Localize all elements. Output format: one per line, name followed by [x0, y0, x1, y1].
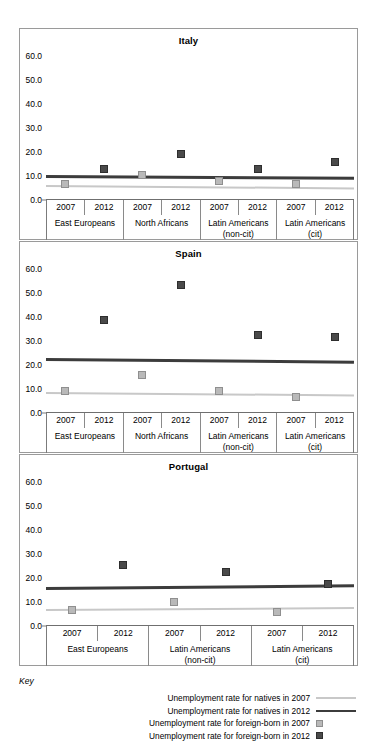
x-axis-year-row: 20072012200720122007201220072012	[47, 200, 353, 215]
legend-item-label: Unemployment rate for natives in 2007	[167, 693, 310, 703]
natives-2012-line	[46, 584, 354, 589]
legend-item-label: Unemployment rate for foreign-born in 20…	[149, 731, 310, 741]
natives-2012-line	[46, 175, 354, 179]
x-axis-group-cell: Latin Americans(cit)	[276, 428, 353, 453]
group-label-line1: North Africans	[124, 218, 200, 229]
foreign-born-2012-marker	[177, 150, 185, 158]
x-axis-group-cell: North Africans	[123, 428, 200, 453]
plot-area-portugal: 0.010.020.030.040.050.060.0	[46, 482, 354, 626]
x-axis-group-row: East EuropeansNorth AfricansLatin Americ…	[47, 215, 353, 240]
y-axis-tick-label: 60.0	[12, 264, 42, 274]
group-label-line1: East Europeans	[47, 644, 148, 655]
y-axis-tick-label: 60.0	[12, 51, 42, 61]
x-axis-portugal: 200720122007201220072012East EuropeansLa…	[46, 626, 354, 666]
y-axis-tick-label: 50.0	[12, 501, 42, 511]
plot-area-italy: 0.010.020.030.040.050.060.0	[46, 56, 354, 200]
x-axis-year-cell: 2012	[238, 200, 276, 215]
y-axis-tick-label: 50.0	[12, 75, 42, 85]
natives-2007-line-icon	[316, 697, 356, 699]
y-axis-tick-label: 50.0	[12, 288, 42, 298]
natives-2007-line	[46, 392, 354, 396]
natives-2012-line-icon	[316, 710, 356, 712]
foreign-born-2012-marker	[177, 281, 185, 289]
y-axis-tick-label: 0.0	[12, 408, 42, 418]
x-axis-year-row: 20072012200720122007201220072012	[47, 413, 353, 428]
x-axis-year-cell: 2007	[276, 200, 314, 215]
group-label-line2: (non-cit)	[201, 229, 277, 240]
y-axis-tick-label: 10.0	[12, 597, 42, 607]
group-label-line1: Latin Americans	[277, 218, 353, 229]
key-heading: Key	[19, 676, 34, 686]
foreign-born-2012-marker	[100, 165, 108, 173]
y-axis-tick-label: 20.0	[12, 573, 42, 583]
x-axis-group-cell: Latin Americans(non-cit)	[148, 641, 250, 666]
legend-swatch	[316, 730, 358, 743]
chart-panel-italy: Italy 0.010.020.030.040.050.060.0 200720…	[19, 28, 358, 240]
x-axis-year-row: 200720122007201220072012	[47, 626, 353, 641]
x-axis-year-cell: 2012	[97, 626, 148, 641]
group-label-line1: Latin Americans	[149, 644, 250, 655]
y-axis-tick-label: 40.0	[12, 312, 42, 322]
y-axis-tick-label: 30.0	[12, 123, 42, 133]
y-axis-tick-label: 30.0	[12, 336, 42, 346]
foreign-born-2007-marker	[61, 387, 69, 395]
natives-2007-line	[46, 607, 354, 611]
group-label-line1: Latin Americans	[201, 218, 277, 229]
foreign-born-2007-marker	[138, 371, 146, 379]
x-axis-spain: 20072012200720122007201220072012East Eur…	[46, 413, 354, 453]
natives-2007-line	[46, 185, 354, 189]
x-axis-year-cell: 2007	[200, 200, 238, 215]
x-axis-group-cell: East Europeans	[47, 641, 148, 666]
foreign-born-2007-marker	[292, 393, 300, 401]
foreign-born-2012-marker	[324, 580, 332, 588]
legend-item: Unemployment rate for foreign-born in 20…	[134, 717, 358, 730]
group-label-line2: (cit)	[277, 442, 353, 453]
group-label-line1: East Europeans	[47, 431, 123, 442]
legend-item: Unemployment rate for natives in 2007	[134, 692, 358, 705]
x-axis-year-cell: 2012	[238, 413, 276, 428]
foreign-born-2012-marker	[254, 165, 262, 173]
x-axis-group-row: East EuropeansLatin Americans(non-cit)La…	[47, 641, 353, 666]
x-axis-year-cell: 2007	[148, 626, 199, 641]
x-axis-year-cell: 2007	[47, 413, 84, 428]
x-axis-year-cell: 2007	[47, 200, 84, 215]
y-axis-tick-label: 0.0	[12, 195, 42, 205]
legend-swatch	[316, 717, 358, 730]
foreign-born-2007-marker	[61, 180, 69, 188]
y-axis-tick-label: 10.0	[12, 384, 42, 394]
x-axis-year-cell: 2007	[251, 626, 302, 641]
y-axis-tick-label: 20.0	[12, 147, 42, 157]
y-axis-tick-label: 20.0	[12, 360, 42, 370]
foreign-born-2007-marker	[215, 387, 223, 395]
chart-title: Portugal	[20, 461, 357, 472]
x-axis-group-cell: East Europeans	[47, 215, 123, 240]
x-axis-group-cell: East Europeans	[47, 428, 123, 453]
y-axis-tick-label: 40.0	[12, 525, 42, 535]
foreign-born-2007-marker	[138, 171, 146, 179]
foreign-born-2007-square-icon	[316, 720, 323, 727]
x-axis-year-cell: 2012	[161, 413, 199, 428]
x-axis-year-cell: 2012	[84, 200, 122, 215]
foreign-born-2007-marker	[68, 606, 76, 614]
x-axis-group-cell: Latin Americans(cit)	[251, 641, 353, 666]
legend-item: Unemployment rate for foreign-born in 20…	[134, 730, 358, 743]
legend-swatch	[316, 705, 358, 718]
x-axis-year-cell: 2007	[47, 626, 97, 641]
foreign-born-2007-marker	[170, 598, 178, 606]
x-axis-year-cell: 2007	[123, 413, 161, 428]
group-label-line1: Latin Americans	[277, 431, 353, 442]
x-axis-group-row: East EuropeansNorth AfricansLatin Americ…	[47, 428, 353, 453]
natives-2012-line	[46, 358, 354, 363]
foreign-born-2012-marker	[331, 333, 339, 341]
x-axis-year-cell: 2012	[200, 626, 251, 641]
group-label-line2: (non-cit)	[149, 655, 250, 666]
foreign-born-2012-marker	[100, 316, 108, 324]
foreign-born-2012-marker	[331, 158, 339, 166]
chart-title: Italy	[20, 35, 357, 46]
figure-page: Italy 0.010.020.030.040.050.060.0 200720…	[0, 0, 380, 750]
foreign-born-2012-marker	[119, 561, 127, 569]
x-axis-italy: 20072012200720122007201220072012East Eur…	[46, 200, 354, 240]
plot-area-spain: 0.010.020.030.040.050.060.0	[46, 269, 354, 413]
group-label-line2: (cit)	[277, 229, 353, 240]
group-label-line1: Latin Americans	[252, 644, 353, 655]
